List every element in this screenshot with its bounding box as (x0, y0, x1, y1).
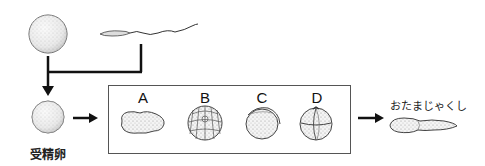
fertilized-egg-label: 受精卵 (30, 145, 66, 162)
tadpole-label: おたまじゃくし (390, 97, 467, 113)
arrow-right-icon (358, 113, 384, 123)
arrow-right-icon (73, 113, 98, 123)
sperm-icon (100, 24, 198, 36)
stage-label-d: D (307, 89, 327, 106)
stage-label-c: C (252, 89, 272, 106)
tadpole-icon (390, 118, 457, 133)
fertilized-egg-icon (32, 101, 64, 133)
stage-label-a: A (133, 89, 153, 106)
stage-label-b: B (195, 89, 215, 106)
arrow-down-icon (42, 86, 54, 96)
egg-icon (29, 15, 67, 53)
